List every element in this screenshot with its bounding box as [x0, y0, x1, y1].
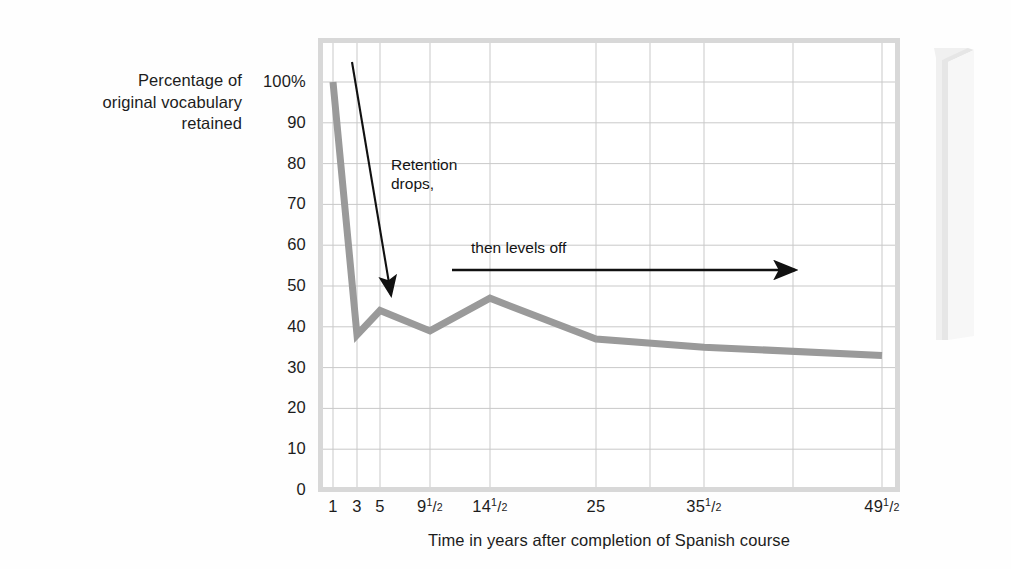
page-edge-artifact — [928, 44, 990, 344]
y-axis-tick-label: 90 — [240, 113, 306, 132]
chart-page: Percentage of original vocabulary retain… — [0, 0, 1011, 569]
y-axis-tick-label: 100% — [240, 72, 306, 91]
x-axis-tick-label: 25 — [587, 497, 606, 516]
y-axis-tick-label: 80 — [240, 154, 306, 173]
y-axis-tick-label: 0 — [240, 480, 306, 499]
x-axis-tick-label: 1 — [328, 497, 337, 516]
x-axis-tick-label: 141/2 — [472, 497, 507, 516]
plot-area: Retention drops, then levels off — [318, 38, 900, 492]
x-axis-tick-label: 491/2 — [864, 497, 899, 516]
y-axis-tick-label: 40 — [240, 317, 306, 336]
y-axis-title-line-2: original vocabulary — [30, 92, 242, 114]
y-axis-tick-label: 50 — [240, 276, 306, 295]
y-axis-tick-label: 60 — [240, 235, 306, 254]
y-axis-tick-label: 70 — [240, 194, 306, 213]
y-axis-tick-label: 20 — [240, 398, 306, 417]
retention-drops-label: Retention drops, — [391, 155, 457, 193]
y-axis-tick-label: 30 — [240, 358, 306, 377]
x-axis-tick-label: 3 — [352, 497, 361, 516]
y-axis-title-line-1: Percentage of — [30, 70, 242, 92]
x-axis-tick-label: 351/2 — [686, 497, 721, 516]
levels-off-label: then levels off — [471, 238, 566, 257]
x-axis-title: Time in years after completion of Spanis… — [318, 531, 900, 550]
retention-drops-label-line-2: drops, — [391, 174, 457, 193]
retention-drops-label-line-1: Retention — [391, 155, 457, 174]
x-axis-tick-label: 5 — [375, 497, 384, 516]
x-axis-tick-label: 91/2 — [417, 497, 443, 516]
annotation-arrows — [323, 43, 895, 487]
retention-drops-arrow — [352, 62, 391, 295]
y-axis-tick-label: 10 — [240, 439, 306, 458]
y-axis-title: Percentage of original vocabulary retain… — [30, 70, 242, 135]
y-axis-title-line-3: retained — [30, 113, 242, 135]
